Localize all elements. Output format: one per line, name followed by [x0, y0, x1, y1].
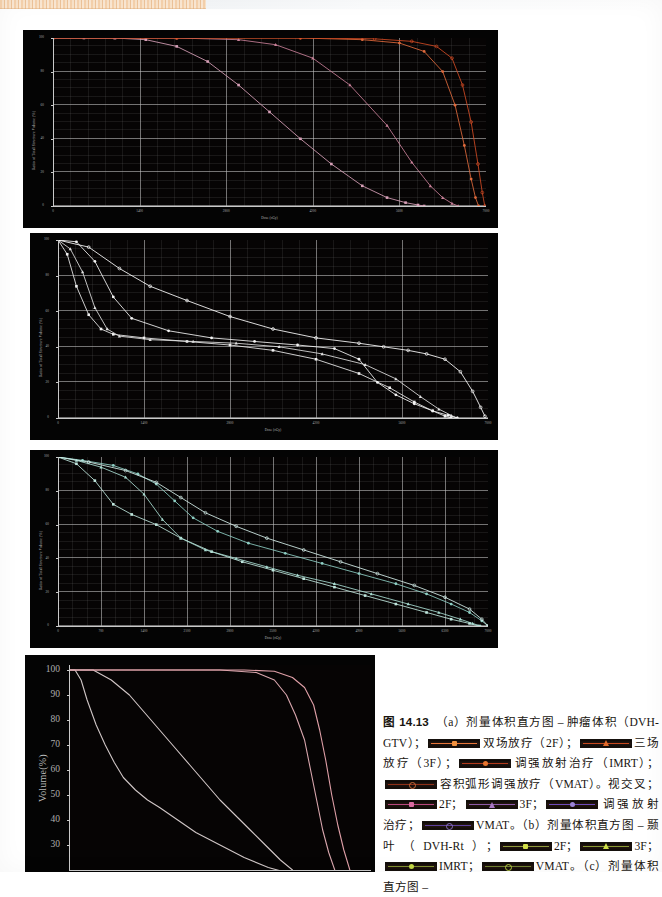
- series-dvh-chiasm-imrt: [58, 240, 459, 418]
- x-axis-label: Dose (cGy): [53, 216, 486, 220]
- series-dvh-bottom-imrt: [69, 670, 335, 870]
- y-tick-mark: [67, 720, 69, 721]
- chart-curves-dvh-chiasm: [58, 240, 488, 418]
- y-tick-mark: [67, 820, 69, 821]
- caption-text: 3F；: [520, 798, 545, 811]
- y-tick-label: 100: [25, 665, 63, 675]
- x-tick-label: 5600: [379, 210, 419, 213]
- y-tick-label: 80: [30, 274, 52, 277]
- plot-area-dvh-gtv: [53, 38, 486, 206]
- caption-text: 3F；: [634, 840, 659, 853]
- legend-swatch: [500, 842, 552, 851]
- series-dvh-chiasm-3f: [58, 240, 459, 418]
- legend-swatch-marker: [483, 761, 488, 766]
- series-dvh-bottom-2f: [69, 670, 286, 870]
- legend-swatch-marker: [603, 740, 609, 746]
- x-tick-label: 7000: [468, 422, 498, 425]
- legend-swatch: [385, 780, 437, 789]
- legend-swatch-marker: [523, 844, 528, 849]
- y-tick-label: 90: [25, 690, 63, 700]
- y-tick-label: 60: [30, 523, 52, 526]
- legend-swatch: [385, 800, 437, 809]
- series-dvh-temporal-lobe-2f: [58, 457, 480, 626]
- x-axis-line: [53, 206, 486, 207]
- y-tick-label: 80: [25, 715, 63, 725]
- x-tick-label: 4200: [296, 630, 336, 633]
- y-tick-mark: [51, 105, 53, 106]
- y-tick-label: 100: [30, 455, 52, 458]
- y-tick-label: 20: [23, 171, 47, 174]
- legend-swatch-marker: [409, 802, 414, 807]
- y-tick-mark: [56, 240, 58, 241]
- y-tick-mark: [56, 626, 58, 627]
- y-axis-line: [69, 665, 70, 870]
- legend-swatch: [459, 759, 511, 768]
- x-tick-label: 1400: [124, 422, 164, 425]
- x-axis-line: [58, 626, 488, 627]
- chart-panel-dvh-chiasm: 020406080100014002800420056007000Ratio o…: [30, 233, 498, 440]
- chart-curves-dvh-gtv: [53, 38, 486, 206]
- legend-swatch-marker: [489, 802, 495, 808]
- caption-text: 调强放射治疗（IMRT）；: [513, 757, 659, 770]
- chart-panel-dvh-gtv: 020406080100014002800420056007000Ratio o…: [23, 30, 498, 228]
- y-tick-mark: [56, 311, 58, 312]
- legend-swatch-marker: [505, 864, 512, 871]
- legend-swatch: [482, 862, 534, 871]
- x-tick-label: 5600: [382, 422, 422, 425]
- legend-swatch-marker: [409, 782, 416, 789]
- caption-text: 2F；: [439, 798, 464, 811]
- plot-area-dvh-chiasm: [58, 240, 488, 418]
- series-dvh-gtv-vmat: [53, 38, 486, 206]
- x-axis-line: [69, 870, 371, 871]
- series-dvh-gtv-2f: [53, 38, 425, 206]
- y-tick-mark: [67, 695, 69, 696]
- x-tick-label: 0: [33, 210, 73, 213]
- y-tick-mark: [67, 795, 69, 796]
- y-tick-mark: [51, 206, 53, 207]
- series-dvh-gtv-3f: [53, 38, 460, 206]
- x-tick-label: 0: [38, 630, 78, 633]
- x-tick-label: 700: [81, 630, 121, 633]
- x-tick-label: 4200: [293, 210, 333, 213]
- y-axis-line: [58, 457, 59, 626]
- x-tick-label: 3500: [253, 630, 293, 633]
- legend-swatch-marker: [570, 802, 575, 807]
- y-tick-mark: [56, 558, 58, 559]
- x-tick-label: 6300: [425, 630, 465, 633]
- legend-swatch: [580, 739, 632, 748]
- y-tick-label: 100: [23, 36, 47, 39]
- x-tick-label: 5600: [382, 630, 422, 633]
- chart-curves-dvh-bottom: [69, 665, 371, 870]
- y-tick-label: 20: [30, 591, 52, 594]
- figure-number: 图 14.13: [383, 715, 429, 728]
- y-axis-label: Ratio of Total Structure Volume (%): [39, 530, 43, 589]
- legend-swatch: [422, 821, 474, 830]
- series-dvh-temporal-lobe-3f: [58, 457, 482, 626]
- x-axis-label: Dose (cGy): [58, 636, 488, 640]
- series-dvh-temporal-lobe-vmat: [58, 457, 488, 626]
- legend-swatch-marker: [446, 823, 453, 830]
- y-tick-mark: [56, 347, 58, 348]
- y-tick-mark: [67, 745, 69, 746]
- y-tick-label: 80: [23, 70, 47, 73]
- y-tick-mark: [51, 172, 53, 173]
- x-tick-label: 4200: [296, 422, 336, 425]
- y-tick-mark: [56, 276, 58, 277]
- y-tick-mark: [56, 491, 58, 492]
- x-tick-label: 0: [38, 422, 78, 425]
- y-axis-line: [58, 240, 59, 418]
- series-dvh-chiasm-vmat: [58, 240, 486, 418]
- y-tick-mark: [56, 525, 58, 526]
- decorative-top-banner: [0, 0, 206, 9]
- y-tick-mark: [56, 418, 58, 419]
- caption-text: 双场放疗（2F）；: [482, 737, 577, 750]
- y-tick-label: 40: [25, 815, 63, 825]
- y-tick-label: 20: [30, 381, 52, 384]
- caption-text: 容积弧形调强放疗（VMAT）。视交叉；: [439, 778, 659, 791]
- series-dvh-bottom-3f: [69, 670, 292, 870]
- y-tick-mark: [67, 845, 69, 846]
- x-tick-label: 4900: [339, 630, 379, 633]
- y-axis-line: [53, 38, 54, 206]
- figure-caption: 图 14.13 （a）剂量体积直方图 – 肿瘤体积（DVH-GTV）；双场放疗（…: [383, 712, 659, 897]
- y-tick-mark: [51, 139, 53, 140]
